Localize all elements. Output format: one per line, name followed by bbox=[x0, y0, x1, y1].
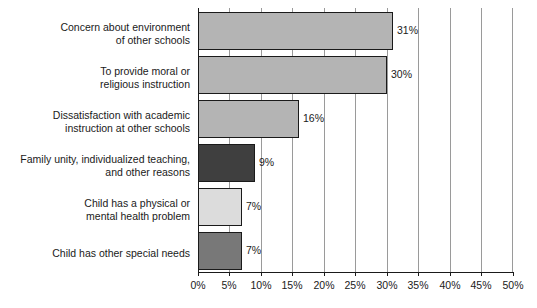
bar-value-5: 7% bbox=[246, 244, 261, 257]
bar-value-3: 9% bbox=[259, 156, 274, 169]
gridline-40 bbox=[450, 8, 451, 272]
x-tick-5 bbox=[229, 272, 230, 276]
gridline-45 bbox=[481, 8, 482, 272]
x-tick-50 bbox=[513, 272, 514, 276]
bar-4 bbox=[198, 188, 242, 226]
gridline-35 bbox=[418, 8, 419, 272]
bar-0 bbox=[198, 12, 393, 50]
x-tick-20 bbox=[324, 272, 325, 276]
bar-chart: Concern about environment of other schoo… bbox=[0, 0, 537, 308]
bar-1 bbox=[198, 56, 387, 94]
x-tick-10 bbox=[261, 272, 262, 276]
bar-3 bbox=[198, 144, 255, 182]
plot-area: 31% 30% 16% 9% 7% 7% bbox=[198, 8, 513, 272]
category-label: Child has a physical or mental health pr… bbox=[0, 197, 190, 222]
x-tick-label-50: 50% bbox=[493, 279, 533, 292]
category-label: Dissatisfaction with academic instructio… bbox=[0, 109, 190, 134]
gridline-50 bbox=[512, 8, 513, 272]
bar-value-4: 7% bbox=[246, 200, 261, 213]
x-tick-15 bbox=[292, 272, 293, 276]
x-tick-40 bbox=[450, 272, 451, 276]
x-tick-35 bbox=[418, 272, 419, 276]
category-axis: Concern about environment of other schoo… bbox=[0, 8, 190, 272]
bar-value-0: 31% bbox=[397, 24, 418, 37]
category-label: Family unity, individualized teaching, a… bbox=[0, 153, 190, 178]
x-tick-45 bbox=[481, 272, 482, 276]
bar-value-1: 30% bbox=[391, 68, 412, 81]
category-label: To provide moral or religious instructio… bbox=[0, 65, 190, 90]
x-tick-30 bbox=[387, 272, 388, 276]
x-tick-0 bbox=[198, 272, 199, 276]
bar-5 bbox=[198, 232, 242, 270]
bar-2 bbox=[198, 100, 299, 138]
bar-value-2: 16% bbox=[303, 112, 324, 125]
category-label: Concern about environment of other schoo… bbox=[0, 21, 190, 46]
category-label: Child has other special needs bbox=[0, 247, 190, 260]
x-axis-line bbox=[198, 272, 514, 273]
x-tick-25 bbox=[355, 272, 356, 276]
